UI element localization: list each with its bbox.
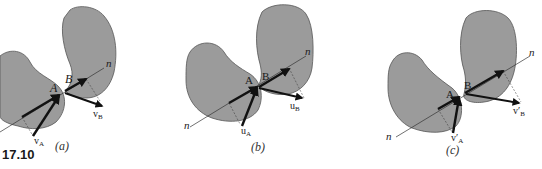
point-label-a: A xyxy=(245,74,253,86)
normal-label-n: n xyxy=(106,57,112,69)
figure-number: 17.10 xyxy=(2,147,35,162)
vector-label-ua: uA xyxy=(241,125,251,138)
normal-label-n: n xyxy=(529,46,535,58)
point-label-a: A xyxy=(49,81,58,95)
figure-canvas: A B n vA vB (a) A B n n uA uB (b) A xyxy=(0,0,542,169)
normal-label-n-2: n xyxy=(386,130,392,142)
panel-c: A B n n v′A v′B (c) xyxy=(386,11,535,158)
panel-caption-c: (c) xyxy=(446,143,459,157)
vector-label-va: vA xyxy=(34,135,44,148)
panel-caption-b: (b) xyxy=(251,140,265,154)
vector-label-ub: uB xyxy=(290,100,300,113)
point-label-b: B xyxy=(464,79,471,91)
normal-label-n-2: n xyxy=(184,119,190,131)
point-label-b: B xyxy=(65,72,73,86)
panel-b: A B n n uA uB (b) xyxy=(184,5,313,154)
vector-label-vb: vB xyxy=(93,108,103,121)
point-label-a: A xyxy=(446,88,454,100)
normal-label-n: n xyxy=(305,45,311,57)
panel-caption-a: (a) xyxy=(55,139,69,153)
point-label-b: B xyxy=(262,70,269,82)
vector-label-vb-prime: v′B xyxy=(513,105,525,118)
panel-a: A B n vA vB (a) xyxy=(0,7,116,153)
